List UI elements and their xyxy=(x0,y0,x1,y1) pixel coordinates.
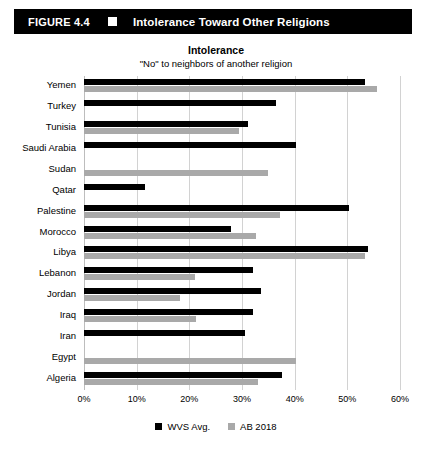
bar-tunisia-wvs xyxy=(84,121,248,127)
bar-lebanon-ab xyxy=(84,274,195,280)
figure-title: Intolerance Toward Other Religions xyxy=(133,16,330,28)
bar-group xyxy=(84,327,400,348)
bar-group xyxy=(84,369,400,390)
bar-morocco-wvs xyxy=(84,226,231,232)
y-label-jordan: Jordan xyxy=(0,288,76,299)
x-tick-10: 10% xyxy=(117,394,157,404)
x-tick-40: 40% xyxy=(275,394,315,404)
x-tick-30: 30% xyxy=(222,394,262,404)
bar-group xyxy=(84,202,400,223)
bar-algeria-wvs xyxy=(84,372,282,378)
bar-saudi-arabia-wvs xyxy=(84,142,296,148)
figure-container: FIGURE 4.4 Intolerance Toward Other Reli… xyxy=(0,0,432,456)
y-label-lebanon: Lebanon xyxy=(0,267,76,278)
bar-group xyxy=(84,97,400,118)
y-label-sudan: Sudan xyxy=(0,163,76,174)
x-tick-50: 50% xyxy=(327,394,367,404)
bar-group xyxy=(84,306,400,327)
gridline-60 xyxy=(400,76,401,390)
bar-egypt-ab xyxy=(84,358,296,364)
y-label-egypt: Egypt xyxy=(0,351,76,362)
bar-group xyxy=(84,223,400,244)
x-tick-0: 0% xyxy=(64,394,104,404)
bar-tunisia-ab xyxy=(84,128,239,134)
chart-title: Intolerance xyxy=(0,44,432,56)
bar-group xyxy=(84,285,400,306)
legend-swatch-icon xyxy=(228,423,235,430)
bar-qatar-wvs xyxy=(84,184,145,190)
x-tick-60: 60% xyxy=(380,394,420,404)
bar-iraq-ab xyxy=(84,316,196,322)
bar-lebanon-wvs xyxy=(84,267,253,273)
bar-jordan-ab xyxy=(84,295,180,301)
legend-label: AB 2018 xyxy=(240,421,276,432)
bar-group xyxy=(84,160,400,181)
bar-group xyxy=(84,181,400,202)
y-label-iran: Iran xyxy=(0,330,76,341)
figure-number: FIGURE 4.4 xyxy=(28,16,90,28)
legend-label: WVS Avg. xyxy=(167,421,210,432)
y-label-palestine: Palestine xyxy=(0,205,76,216)
y-label-qatar: Qatar xyxy=(0,184,76,195)
x-tick-20: 20% xyxy=(169,394,209,404)
y-label-yemen: Yemen xyxy=(0,79,76,90)
legend-item-wvs: WVS Avg. xyxy=(155,421,210,432)
bar-iraq-wvs xyxy=(84,309,253,315)
figure-header-bar: FIGURE 4.4 Intolerance Toward Other Reli… xyxy=(14,9,412,34)
chart-subtitle: "No" to neighbors of another religion xyxy=(0,58,432,69)
bar-group xyxy=(84,348,400,369)
bar-iran-wvs xyxy=(84,330,245,336)
y-axis-labels: YemenTurkeyTunisiaSaudi ArabiaSudanQatar… xyxy=(0,76,80,390)
bar-group xyxy=(84,264,400,285)
legend-item-ab: AB 2018 xyxy=(228,421,276,432)
bar-yemen-wvs xyxy=(84,79,365,85)
y-label-libya: Libya xyxy=(0,246,76,257)
bar-algeria-ab xyxy=(84,379,258,385)
bar-morocco-ab xyxy=(84,233,256,239)
chart-legend: WVS Avg.AB 2018 xyxy=(0,421,432,432)
bar-palestine-ab xyxy=(84,212,280,218)
bar-yemen-ab xyxy=(84,86,377,92)
bar-group xyxy=(84,118,400,139)
y-label-tunisia: Tunisia xyxy=(0,121,76,132)
y-label-saudi-arabia: Saudi Arabia xyxy=(0,142,76,153)
bar-group xyxy=(84,139,400,160)
bar-turkey-wvs xyxy=(84,100,276,106)
bar-group xyxy=(84,243,400,264)
bar-jordan-wvs xyxy=(84,288,261,294)
square-icon xyxy=(108,17,117,26)
bar-group xyxy=(84,76,400,97)
y-label-algeria: Algeria xyxy=(0,372,76,383)
y-label-morocco: Morocco xyxy=(0,226,76,237)
y-label-iraq: Iraq xyxy=(0,309,76,320)
bar-sudan-ab xyxy=(84,170,268,176)
legend-swatch-icon xyxy=(155,423,162,430)
plot-area xyxy=(84,76,400,390)
bar-libya-wvs xyxy=(84,246,368,252)
y-label-turkey: Turkey xyxy=(0,100,76,111)
bar-libya-ab xyxy=(84,253,365,259)
bar-palestine-wvs xyxy=(84,205,349,211)
